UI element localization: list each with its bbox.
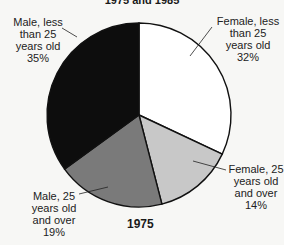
label-line: Male, less: [8, 16, 68, 28]
label-percent: 19%: [26, 226, 82, 238]
label-line: years old: [26, 202, 82, 214]
label-percent: 32%: [212, 51, 284, 63]
label-percent: 14%: [225, 199, 284, 211]
label-line: years old: [212, 39, 284, 51]
year-label: 1975: [127, 217, 154, 231]
label-line: Female, less: [212, 15, 284, 27]
label-line: Female, 25: [225, 163, 284, 175]
label-male-lt25: Male, less than 25 years old 35%: [8, 16, 68, 64]
label-line: and over: [26, 214, 82, 226]
label-percent: 35%: [8, 52, 68, 64]
label-line: and over: [225, 187, 284, 199]
label-line: than 25: [212, 27, 284, 39]
label-male-25plus: Male, 25 years old and over 19%: [26, 190, 82, 238]
label-female-25plus: Female, 25 years old and over 14%: [225, 163, 284, 211]
label-female-lt25: Female, less than 25 years old 32%: [212, 15, 284, 63]
label-line: years old: [8, 40, 68, 52]
label-line: than 25: [8, 28, 68, 40]
label-line: Male, 25: [26, 190, 82, 202]
label-line: years old: [225, 175, 284, 187]
